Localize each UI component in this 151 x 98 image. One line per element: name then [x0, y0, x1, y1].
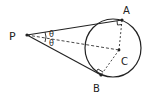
- point-c: [118, 49, 121, 52]
- right-angle-marker-a: [117, 21, 122, 25]
- circle: [85, 19, 141, 77]
- angle-label-upper: θ: [49, 30, 54, 39]
- point-p: [25, 33, 28, 36]
- geometry-diagram: P A C B θ θ: [0, 0, 151, 98]
- point-a: [120, 18, 123, 21]
- label-b: B: [93, 83, 100, 94]
- label-c: C: [121, 56, 128, 67]
- angle-label-lower: θ: [49, 39, 54, 48]
- point-b: [99, 73, 102, 76]
- radius-cb: [101, 50, 119, 75]
- tangent-line-pa: [27, 20, 122, 35]
- angle-arc: [45, 32, 46, 42]
- label-p: P: [9, 30, 16, 43]
- label-a: A: [123, 5, 130, 16]
